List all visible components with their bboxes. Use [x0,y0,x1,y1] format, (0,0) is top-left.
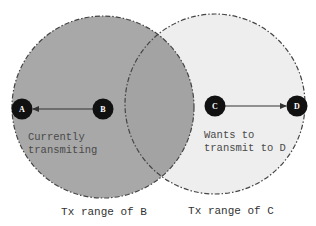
node-b: B [93,99,114,120]
b-status-line1: Currently [28,131,85,143]
b-status-line2: transmiting [28,144,97,156]
node-b-label: B [100,105,106,114]
node-a: A [12,99,33,120]
node-d-label: D [294,102,300,111]
wireless-range-diagram: A B C D Currently transmiting Wants to t… [0,0,316,226]
caption-range-b: Tx range of B [61,206,147,218]
node-d: D [287,96,308,117]
c-status-line1: Wants to [204,129,254,141]
node-c-label: C [212,102,218,111]
caption-range-c: Tx range of C [188,205,274,217]
diagram-canvas: A B C D Currently transmiting Wants to t… [0,0,316,226]
node-c: C [205,96,226,117]
c-status-line2: transmit to D [204,142,286,154]
node-a-label: A [19,105,25,114]
